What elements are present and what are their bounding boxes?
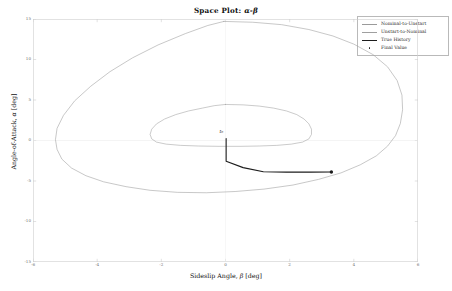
y-tick-label: 10 xyxy=(9,57,31,61)
chart-title: Space Plot: α-β xyxy=(0,6,452,15)
x-tick-label: -6 xyxy=(23,263,43,267)
annotations-group: t₀ xyxy=(219,129,223,134)
axis-ticks xyxy=(33,19,418,262)
annotation-t0: t₀ xyxy=(219,129,223,134)
x-tick-label: -2 xyxy=(151,263,171,267)
x-tick-label: -4 xyxy=(87,263,107,267)
y-tick-label: -10 xyxy=(9,219,31,223)
x-tick-label: 2 xyxy=(280,263,300,267)
chart-title-prefix: Space Plot: xyxy=(194,6,244,15)
y-axis-title-symbol: α xyxy=(10,112,17,116)
axes-canvas: t₀ xyxy=(33,19,418,262)
data-series-group xyxy=(55,21,402,192)
chart-title-math: α-β xyxy=(244,6,258,15)
y-axis-title: Angle-of-Attack, α [deg] xyxy=(10,67,17,197)
x-axis-title: Sideslip Angle, β [deg] xyxy=(0,272,452,279)
x-axis-title-text: Sideslip Angle, xyxy=(190,272,240,279)
chart-figure: Space Plot: α-β Nominal-to-Unstart Unsta… xyxy=(0,0,452,291)
series-2 xyxy=(226,138,331,172)
final-value-marker xyxy=(330,170,333,173)
plot-area: t₀ xyxy=(33,19,418,262)
y-tick-label: 15 xyxy=(9,17,31,21)
x-tick-label: 0 xyxy=(216,263,236,267)
x-tick-label: 4 xyxy=(344,263,364,267)
series-1 xyxy=(150,104,311,146)
series-0 xyxy=(55,21,402,192)
x-axis-title-unit: [deg] xyxy=(243,272,262,279)
y-axis-title-text: Angle-of-Attack, xyxy=(10,116,17,169)
y-axis-title-unit: [deg] xyxy=(10,93,17,112)
x-tick-label: 6 xyxy=(408,263,428,267)
